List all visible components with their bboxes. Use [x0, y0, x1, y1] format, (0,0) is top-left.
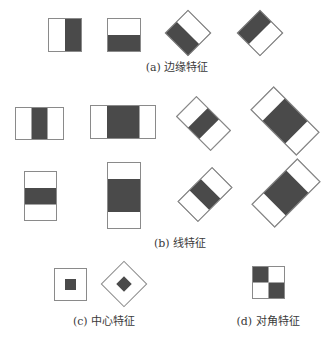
edge-feature-horizontal — [108, 19, 141, 52]
caption-edge-features: (a) 边缘特征 — [146, 62, 209, 74]
center-feature-diamond — [101, 261, 146, 306]
line-feature-vertical-wide — [91, 106, 156, 139]
center-feature-square — [55, 269, 87, 301]
caption-center-features: (c) 中心特征 — [73, 316, 135, 328]
line-feature-rotated-wide-2 — [252, 159, 320, 227]
line-feature-horizontal-wide — [108, 163, 141, 229]
diagonal-feature — [253, 267, 285, 299]
edge-feature-rotated-left — [165, 10, 210, 55]
line-feature-horizontal-narrow — [25, 172, 57, 221]
caption-line-features: (b) 线特征 — [154, 238, 206, 250]
edge-feature-vertical — [49, 19, 82, 52]
line-feature-rotated-narrow-2 — [178, 168, 232, 222]
diagram-svg — [0, 0, 336, 342]
line-feature-vertical-narrow — [16, 108, 64, 140]
haar-features-diagram: (a) 边缘特征 (b) 线特征 (c) 中心特征 (d) 对角特征 — [0, 0, 336, 342]
edge-feature-rotated-right — [237, 10, 282, 55]
line-feature-rotated-wide-1 — [251, 87, 319, 155]
line-feature-rotated-narrow-1 — [177, 97, 231, 151]
caption-diagonal-features: (d) 对角特征 — [236, 316, 299, 328]
